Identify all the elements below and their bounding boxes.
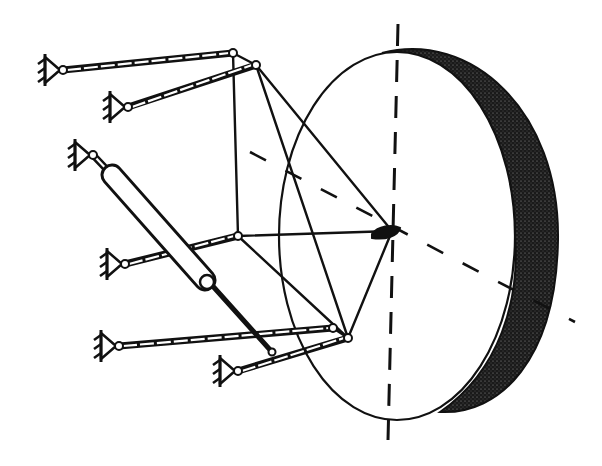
ground-anchor-icon	[68, 139, 97, 171]
joint-node	[344, 334, 352, 342]
ground-anchor-icon	[100, 248, 129, 280]
ground-anchor-icon	[38, 54, 67, 86]
strut-mount-diagram	[0, 0, 602, 466]
ground-anchor-icon	[94, 330, 123, 362]
joint-node	[329, 324, 337, 332]
joint-node	[234, 232, 242, 240]
frame-link	[233, 53, 238, 236]
ground-anchor-icon	[213, 355, 242, 387]
actuator-gland	[200, 275, 214, 289]
ground-anchor-icon	[103, 91, 132, 123]
strut	[63, 53, 233, 70]
actuator-rod-end	[269, 349, 276, 356]
diagram-figure	[0, 0, 602, 466]
actuator-rod	[210, 283, 272, 352]
strut	[128, 65, 256, 107]
joint-node	[229, 49, 237, 57]
joint-node	[252, 61, 260, 69]
hydraulic-actuator	[93, 155, 276, 356]
